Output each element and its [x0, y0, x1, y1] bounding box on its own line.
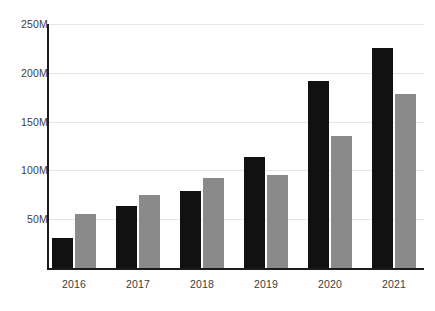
bar-group — [116, 24, 160, 268]
gridline — [48, 24, 424, 25]
y-axis-line — [47, 24, 49, 270]
plot-area — [48, 24, 424, 268]
y-axis-tick-label: 200M — [21, 67, 48, 79]
bar — [75, 214, 96, 268]
bar — [267, 175, 288, 268]
bar-chart: 50M100M150M200M250M201620172018201920202… — [0, 0, 435, 311]
bar — [331, 136, 352, 268]
bar — [139, 195, 160, 268]
bar-group — [180, 24, 224, 268]
bar-group — [372, 24, 416, 268]
x-axis-tick-label: 2016 — [62, 278, 86, 290]
gridline — [48, 73, 424, 74]
x-axis-line — [47, 268, 424, 270]
gridline — [48, 219, 424, 220]
y-axis-tick-label: 100M — [21, 164, 48, 176]
bar — [395, 94, 416, 268]
bar — [116, 206, 137, 268]
bar-group — [52, 24, 96, 268]
bar — [372, 48, 393, 268]
y-axis-tick-label: 50M — [27, 213, 48, 225]
y-axis-tick-label: 150M — [21, 116, 48, 128]
gridline — [48, 122, 424, 123]
x-axis-tick-label: 2020 — [318, 278, 342, 290]
bar — [308, 81, 329, 268]
bar — [244, 157, 265, 268]
x-axis-tick-label: 2017 — [126, 278, 150, 290]
x-axis-tick-label: 2019 — [254, 278, 278, 290]
bar-group — [308, 24, 352, 268]
x-axis-tick-label: 2018 — [190, 278, 214, 290]
gridline — [48, 170, 424, 171]
bar — [203, 178, 224, 268]
bar — [180, 191, 201, 268]
bar-group — [244, 24, 288, 268]
y-axis-tick-label: 250M — [21, 18, 48, 30]
x-axis-tick-label: 2021 — [382, 278, 406, 290]
bar — [52, 238, 73, 268]
